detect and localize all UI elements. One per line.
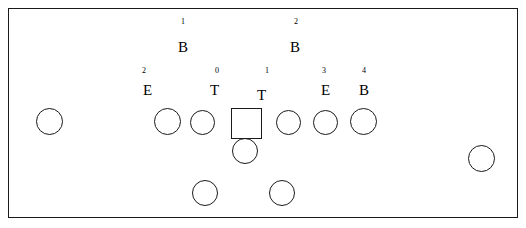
football-alignment-diagram: 1220134 BBETTEB xyxy=(0,0,526,228)
technique-number-tackle-right: 1 xyxy=(265,67,269,75)
player-line-3 xyxy=(276,110,301,135)
technique-number-end-right: 3 xyxy=(322,67,326,75)
player-line-5 xyxy=(350,108,377,135)
field-frame-border xyxy=(8,8,518,218)
player-center-ball xyxy=(231,108,262,139)
technique-number-backer-outside: 4 xyxy=(362,67,366,75)
position-label-backer-left: B xyxy=(178,40,188,55)
player-line-4 xyxy=(313,110,338,135)
technique-number-end-left: 2 xyxy=(142,67,146,75)
position-label-end-left: E xyxy=(143,83,152,98)
player-quarterback xyxy=(232,138,258,164)
position-label-backer-right: B xyxy=(290,40,300,55)
position-label-end-right: E xyxy=(321,83,330,98)
player-line-2 xyxy=(190,110,215,135)
position-label-tackle-right: T xyxy=(257,88,266,103)
player-back-left xyxy=(192,180,218,206)
player-line-1 xyxy=(154,108,181,135)
position-label-tackle-left: T xyxy=(210,83,219,98)
player-wide-left xyxy=(36,108,63,135)
technique-number-backer-right: 2 xyxy=(294,18,298,26)
technique-number-backer-left: 1 xyxy=(181,18,185,26)
position-label-backer-outside: B xyxy=(359,83,369,98)
player-wide-right xyxy=(468,145,495,172)
player-back-right xyxy=(269,180,295,206)
technique-number-tackle-left: 0 xyxy=(215,67,219,75)
